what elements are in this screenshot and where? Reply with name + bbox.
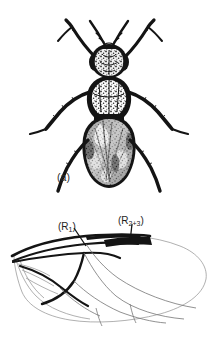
thickened-anterior-veins — [12, 235, 152, 307]
head — [89, 44, 129, 78]
vein-label-r1-open: (R — [58, 221, 69, 232]
vein-label-r2plus3-open: (R — [118, 215, 129, 226]
panel-a-label: (a) — [57, 172, 70, 183]
vein-label-r1-subscript: 1 — [69, 226, 73, 233]
vein-label-r2plus3-close: ) — [140, 215, 143, 226]
fly-dorsal-drawing — [0, 0, 222, 196]
wing-outline — [14, 235, 206, 322]
vein-label-r2plus3-subscript: 2+3 — [129, 220, 141, 227]
vein-label-r1-close: ) — [72, 221, 75, 232]
wing-venation-drawing — [0, 196, 222, 338]
thorax — [87, 76, 131, 123]
folded-wings-abdomen — [82, 116, 135, 188]
figure-plate: (a) — [0, 0, 222, 338]
vein-label-r2plus3: (R2+3) — [118, 216, 144, 226]
panel-a-fly-illustration: (a) — [0, 0, 222, 196]
panel-b-wing-venation: (b) — [0, 196, 222, 338]
vein-label-r1: (R1) — [58, 222, 76, 232]
